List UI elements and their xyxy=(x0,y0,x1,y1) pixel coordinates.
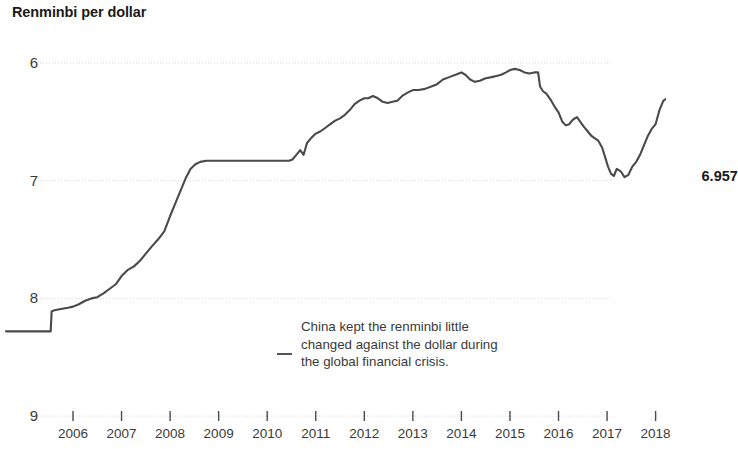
x-tick-label-2018: 2018 xyxy=(633,427,679,441)
y-tick-label-8: 8 xyxy=(12,290,38,305)
x-tick-label-2009: 2009 xyxy=(196,427,242,441)
x-tick-label-2011: 2011 xyxy=(293,427,339,441)
x-tick-label-2013: 2013 xyxy=(390,427,436,441)
y-tick-label-7: 7 xyxy=(12,173,38,188)
x-tick-label-2017: 2017 xyxy=(584,427,630,441)
x-tick-label-2014: 2014 xyxy=(438,427,484,441)
x-tick-label-2008: 2008 xyxy=(147,427,193,441)
y-tick-label-6: 6 xyxy=(12,55,38,70)
y-tick-label-9: 9 xyxy=(12,408,38,423)
end-value-label: 6.957 xyxy=(702,169,738,184)
x-tick-label-2006: 2006 xyxy=(50,427,96,441)
x-tick-label-2012: 2012 xyxy=(341,427,387,441)
x-tick-label-2007: 2007 xyxy=(99,427,145,441)
x-tick-label-2010: 2010 xyxy=(244,427,290,441)
chart-annotation-text: China kept the renminbi little changed a… xyxy=(301,318,516,371)
annotation-leader-dash-icon xyxy=(277,353,292,355)
x-tick-label-2016: 2016 xyxy=(536,427,582,441)
renminbi-line-series xyxy=(6,69,666,331)
x-tick-label-2015: 2015 xyxy=(487,427,533,441)
